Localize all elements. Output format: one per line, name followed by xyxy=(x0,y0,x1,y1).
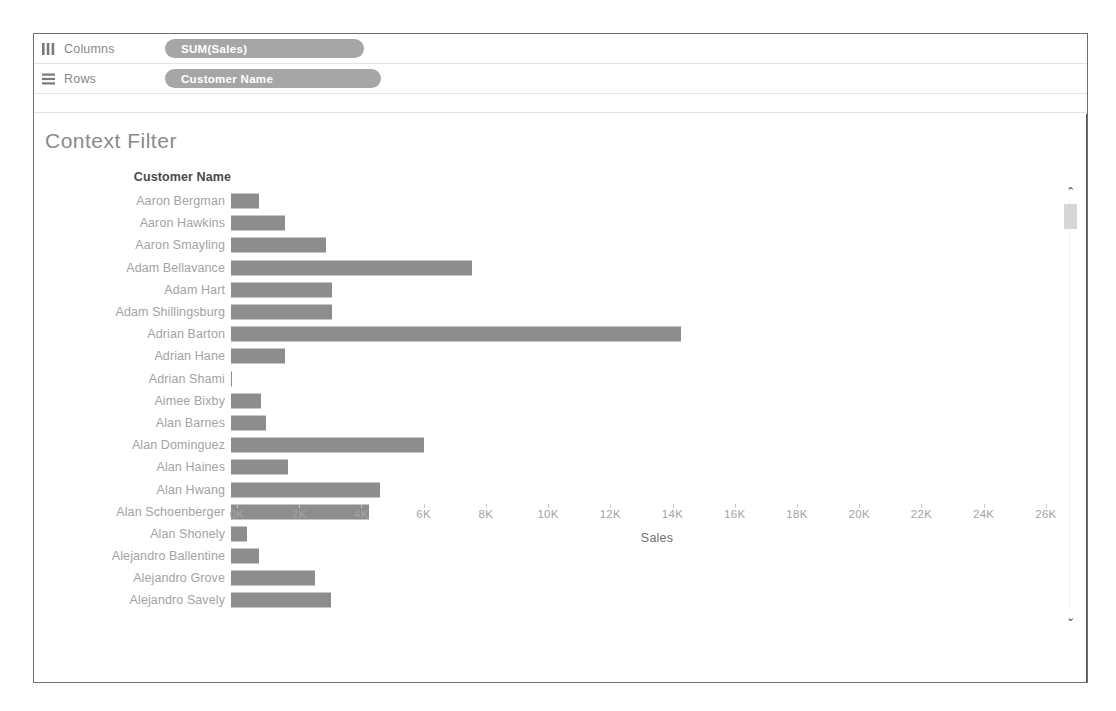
scroll-up-icon[interactable]: ⌃ xyxy=(1063,184,1078,198)
bar-row-label: Adrian Hane xyxy=(34,349,231,363)
x-tick-label: 18K xyxy=(786,508,807,520)
bar[interactable] xyxy=(231,305,332,320)
x-tick-label: 0K xyxy=(230,508,245,520)
bar-row-label: Alan Schoenberger xyxy=(34,505,231,519)
bar-row[interactable]: Adrian Barton xyxy=(34,323,1087,345)
bar[interactable] xyxy=(231,371,232,386)
bar[interactable] xyxy=(231,238,326,253)
bar-cell xyxy=(231,368,1087,390)
bar-row[interactable]: Alejandro Savely xyxy=(34,589,1087,611)
chart-area: Customer Name Aaron BergmanAaron Hawkins… xyxy=(34,170,1087,682)
bar-cell xyxy=(231,412,1087,434)
bar[interactable] xyxy=(231,216,285,231)
bar-cell xyxy=(231,279,1087,301)
x-tick-label: 6K xyxy=(416,508,431,520)
columns-icon xyxy=(41,42,57,56)
bar-cell xyxy=(231,589,1087,611)
x-tick-label: 8K xyxy=(479,508,494,520)
columns-shelf-label: Columns xyxy=(64,42,115,56)
columns-shelf[interactable]: Columns SUM(Sales) xyxy=(34,34,1087,64)
x-tick-label: 16K xyxy=(724,508,745,520)
bar-row-label: Alan Dominguez xyxy=(34,438,231,452)
pill-sum-sales[interactable]: SUM(Sales) xyxy=(165,39,364,58)
x-axis-title: Sales xyxy=(237,531,1077,545)
bar-cell xyxy=(231,257,1087,279)
bar-row-label: Adrian Barton xyxy=(34,327,231,341)
bar-row[interactable]: Adrian Shami xyxy=(34,368,1087,390)
bar-cell xyxy=(231,545,1087,567)
bar-row-label: Aaron Hawkins xyxy=(34,216,231,230)
bar[interactable] xyxy=(231,349,285,364)
rows-shelf-label: Rows xyxy=(64,72,96,86)
x-axis: 0K2K4K6K8K10K12K14K16K18K20K22K24K26K Sa… xyxy=(237,504,1077,544)
bar-row[interactable]: Aaron Hawkins xyxy=(34,212,1087,234)
bar-row[interactable]: Aaron Smayling xyxy=(34,234,1087,256)
x-tick-label: 22K xyxy=(911,508,932,520)
bar[interactable] xyxy=(231,460,288,475)
x-tick-label: 4K xyxy=(354,508,369,520)
bar-row[interactable]: Alan Hwang xyxy=(34,478,1087,500)
bar-row[interactable]: Aaron Bergman xyxy=(34,190,1087,212)
bar[interactable] xyxy=(231,194,259,209)
scroll-down-icon[interactable]: ⌄ xyxy=(1063,610,1078,624)
bar-row-label: Alan Hwang xyxy=(34,483,231,497)
bar-cell xyxy=(231,301,1087,323)
bar-row[interactable]: Adrian Hane xyxy=(34,345,1087,367)
bar-row[interactable]: Adam Bellavance xyxy=(34,257,1087,279)
bar[interactable] xyxy=(231,438,424,453)
bar-cell xyxy=(231,212,1087,234)
bar[interactable] xyxy=(231,327,681,342)
bar-row[interactable]: Alan Haines xyxy=(34,456,1087,478)
bar-row-label: Aaron Smayling xyxy=(34,238,231,252)
bar-cell xyxy=(231,390,1087,412)
x-tick-label: 26K xyxy=(1035,508,1056,520)
bar-cell xyxy=(231,323,1087,345)
bar[interactable] xyxy=(231,260,472,275)
bar-row[interactable]: Adam Shillingsburg xyxy=(34,301,1087,323)
bar-row[interactable]: Alejandro Ballentine xyxy=(34,545,1087,567)
x-tick-label: 14K xyxy=(662,508,683,520)
scrollbar-thumb[interactable] xyxy=(1064,204,1077,229)
bar-row-label: Adam Shillingsburg xyxy=(34,305,231,319)
bar[interactable] xyxy=(231,571,315,586)
bar-row-label: Adam Bellavance xyxy=(34,261,231,275)
bar-row-label: Alan Haines xyxy=(34,460,231,474)
bar-row[interactable]: Alejandro Grove xyxy=(34,567,1087,589)
bar-row-label: Aimee Bixby xyxy=(34,394,231,408)
bar[interactable] xyxy=(231,393,261,408)
bar-cell xyxy=(231,190,1087,212)
bar-row[interactable]: Aimee Bixby xyxy=(34,390,1087,412)
bar-row-label: Adam Hart xyxy=(34,283,231,297)
bar-row-label: Adrian Shami xyxy=(34,372,231,386)
page-title: Context Filter xyxy=(45,129,177,153)
x-tick-label: 2K xyxy=(292,508,307,520)
x-axis-ticks: 0K2K4K6K8K10K12K14K16K18K20K22K24K26K xyxy=(237,504,1077,522)
bar-cell xyxy=(231,478,1087,500)
x-tick-label: 24K xyxy=(973,508,994,520)
bar-cell xyxy=(231,567,1087,589)
bar[interactable] xyxy=(231,549,259,564)
bar-row[interactable]: Alan Barnes xyxy=(34,412,1087,434)
bar-row[interactable]: Adam Hart xyxy=(34,279,1087,301)
x-tick-label: 10K xyxy=(537,508,558,520)
bar-row-label: Alejandro Ballentine xyxy=(34,549,231,563)
bar-cell xyxy=(231,434,1087,456)
bar[interactable] xyxy=(231,593,331,608)
bar-row-label: Alan Barnes xyxy=(34,416,231,430)
bar-row-label: Aaron Bergman xyxy=(34,194,231,208)
bar[interactable] xyxy=(231,482,380,497)
bar[interactable] xyxy=(231,415,266,430)
bar-rows: Aaron BergmanAaron HawkinsAaron Smayling… xyxy=(34,190,1087,612)
scrollbar-track[interactable] xyxy=(1069,198,1070,610)
bar-row-label: Alejandro Savely xyxy=(34,593,231,607)
bar-cell xyxy=(231,234,1087,256)
bar-cell xyxy=(231,456,1087,478)
x-tick-label: 20K xyxy=(849,508,870,520)
pill-customer-name[interactable]: Customer Name xyxy=(165,69,381,88)
chart-right-rule xyxy=(1086,114,1087,683)
bar-row[interactable]: Alan Dominguez xyxy=(34,434,1087,456)
rows-shelf[interactable]: Rows Customer Name xyxy=(34,64,1087,94)
bar[interactable] xyxy=(231,282,332,297)
vertical-scrollbar[interactable]: ⌃ ⌄ xyxy=(1063,184,1078,624)
rows-icon xyxy=(41,72,57,86)
